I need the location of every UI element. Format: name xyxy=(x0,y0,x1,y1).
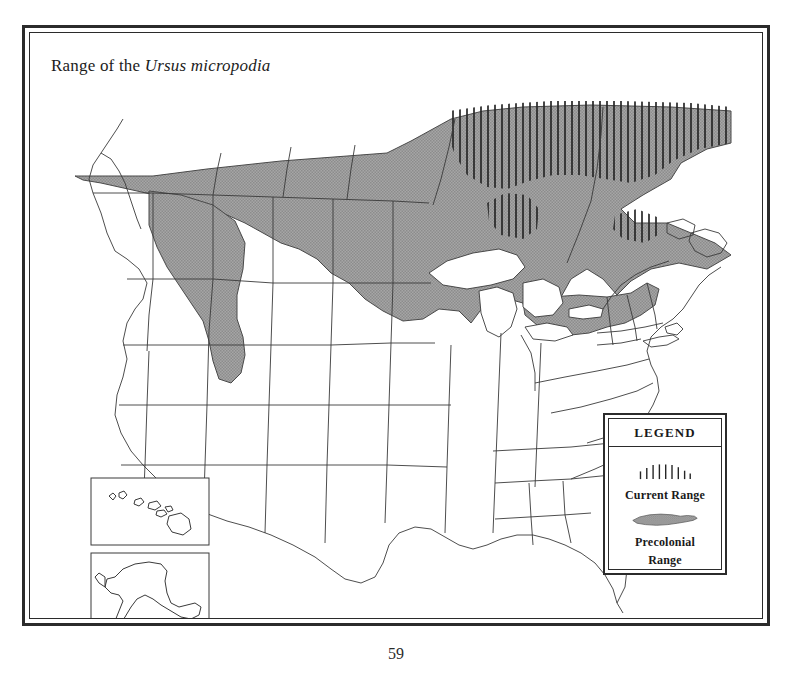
legend-inner-frame: LEGEND Current Range xyxy=(608,418,722,570)
alaska-inset-frame xyxy=(91,553,209,618)
state-line-ma-ct xyxy=(597,339,641,345)
state-line-co-ks xyxy=(325,345,331,543)
state-line-oh-mi xyxy=(521,335,535,391)
legend-precolonial-line2: Range xyxy=(648,553,682,567)
lake-michigan xyxy=(479,287,517,337)
state-line-il-in xyxy=(493,333,501,533)
legend-precolonial-range-label: Precolonial Range xyxy=(635,534,695,569)
legend-title-row: LEGEND xyxy=(609,419,721,447)
legend-box: LEGEND Current Range xyxy=(603,413,727,575)
legend-current-range-label: Current Range xyxy=(625,488,705,503)
gray-blob-swatch xyxy=(615,512,715,527)
page-title-species: Ursus micropodia xyxy=(145,56,271,75)
state-line-horizontal-mid xyxy=(123,343,435,345)
legend-title: LEGEND xyxy=(634,425,696,440)
state-line-oh-pa xyxy=(535,359,649,383)
page-number: 59 xyxy=(0,645,792,663)
page-title-prefix: Range of the xyxy=(51,56,145,75)
vertical-hatch-swatch xyxy=(622,463,708,480)
page-title: Range of the Ursus micropodia xyxy=(51,56,271,76)
state-line-mo-il xyxy=(445,345,451,533)
state-line-ut-co xyxy=(265,345,271,533)
state-line-horizontal-lower xyxy=(121,465,447,467)
state-line-al-ga xyxy=(529,483,533,545)
state-line-ks-mo xyxy=(385,343,391,523)
state-line-in-oh xyxy=(535,343,541,487)
legend-precolonial-line1: Precolonial xyxy=(635,535,695,549)
precolonial-range-western-lobe xyxy=(149,191,245,383)
hawaii-inset-frame xyxy=(91,478,209,545)
alaska-inset xyxy=(91,553,209,618)
long-island xyxy=(643,335,679,347)
page-frame: Range of the Ursus micropodia xyxy=(22,25,770,626)
state-line-gulf-north xyxy=(495,513,591,519)
hawaii-inset xyxy=(91,478,209,545)
state-line-va-wv xyxy=(551,383,653,413)
state-line-ga-fl xyxy=(563,481,571,543)
cape-cod xyxy=(665,323,683,335)
